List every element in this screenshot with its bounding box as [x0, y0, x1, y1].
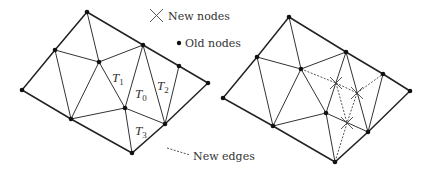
old-node: [163, 122, 168, 127]
old-node: [299, 67, 304, 72]
triangle-label-t0: T0: [135, 86, 147, 103]
right-mesh: [221, 15, 413, 165]
old-node: [221, 96, 226, 101]
old-node: [141, 43, 146, 48]
old-node: [69, 117, 74, 122]
left-mesh: T1 T0 T2 T3: [20, 10, 211, 156]
x-mark-icon: [330, 77, 342, 89]
triangle-label-t1: T1: [112, 70, 124, 87]
legend-old-nodes-label: Old nodes: [185, 37, 241, 50]
old-node: [408, 89, 413, 94]
old-node: [324, 111, 329, 116]
old-node: [123, 106, 128, 111]
old-node: [366, 130, 371, 135]
x-mark-icon: [341, 117, 353, 129]
dotted-line-icon: [167, 148, 190, 155]
right-mesh-new-edges: [301, 69, 383, 162]
right-mesh-interior-edges: [257, 17, 383, 162]
old-node: [130, 151, 135, 156]
right-mesh-old-nodes: [221, 15, 413, 165]
x-mark-icon: [150, 9, 163, 22]
old-node: [85, 10, 90, 15]
old-node: [333, 160, 338, 165]
old-node: [381, 72, 386, 77]
old-node: [255, 55, 260, 60]
old-node: [177, 64, 182, 69]
old-node: [53, 48, 58, 53]
old-node: [344, 50, 349, 55]
old-node: [206, 81, 211, 86]
legend-new-nodes-label: New nodes: [168, 10, 230, 23]
old-node: [271, 124, 276, 129]
filled-dot-icon: [177, 41, 181, 45]
triangle-label-t3: T3: [135, 123, 147, 140]
old-node: [20, 88, 25, 93]
old-node: [97, 60, 102, 65]
triangle-label-t2: T2: [157, 78, 169, 95]
old-node: [287, 15, 292, 20]
mesh-refinement-diagram: T1 T0 T2 T3 New nodes Old nodes New edge…: [0, 0, 430, 172]
x-mark-icon: [351, 87, 363, 99]
legend-new-edges-label: New edges: [193, 150, 255, 163]
right-mesh-boundary: [223, 17, 410, 162]
